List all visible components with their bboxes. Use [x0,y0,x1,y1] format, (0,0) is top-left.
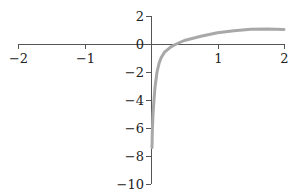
y-tick-label: −10 [117,177,144,192]
x-tick-label: 1 [214,51,222,66]
x-tick-label: 2 [280,51,288,66]
y-tick-label: 0 [136,37,144,52]
y-tick-label: −8 [125,149,144,164]
axes [18,16,285,185]
y-tick-label: 2 [136,9,144,24]
y-tick-label: −4 [125,93,144,108]
x-tick-label: −1 [76,51,95,66]
y-tick-label: −2 [125,65,144,80]
y-tick-label: −6 [125,121,144,136]
chart: −2−11220−2−4−6−8−10 [0,0,295,193]
x-tick-label: −2 [9,51,28,66]
